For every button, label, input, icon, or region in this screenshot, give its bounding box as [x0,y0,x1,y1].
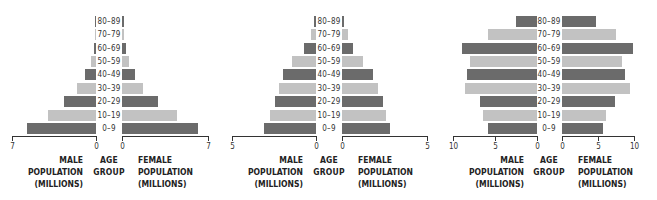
female-axis-tick-label: 0 [560,142,565,151]
age-group-label: 60–69 [529,43,569,54]
male-axis-tick [453,136,454,141]
population-pyramid-3: 0–910–1920–2930–3940–4950–5960–6970–7980… [0,0,657,200]
age-group-label: 70–79 [529,29,569,40]
female-axis-title: FEMALEPOPULATION(MILLIONS) [578,154,657,190]
female-bar [562,43,633,54]
female-axis-tick [634,136,635,141]
male-axis-title: MALEPOPULATION(MILLIONS) [434,154,524,190]
female-bar [562,29,616,40]
male-bar [470,56,537,67]
male-axis-tick-label: 10 [449,142,458,151]
female-bar [562,96,615,107]
male-bar [465,83,537,94]
female-axis-tick-label: 10 [630,142,639,151]
female-bar [562,83,630,94]
male-axis-tick [495,136,496,141]
age-group-label: 80–89 [529,16,569,27]
age-group-label: 40–49 [529,69,569,80]
male-bar [462,43,537,54]
male-axis-tick-label: 0 [535,142,540,151]
age-group-label: 50–59 [529,56,569,67]
female-bar [562,56,622,67]
age-group-axis-title: AGEGROUP [524,154,574,178]
female-axis-tick-label: 5 [596,142,601,151]
age-group-label: 10–19 [529,110,569,121]
female-axis-tick [598,136,599,141]
age-group-label: 30–39 [529,83,569,94]
male-bar [467,69,537,80]
male-axis-tick [537,136,538,141]
age-group-label: 20–29 [529,96,569,107]
female-bar [562,69,625,80]
male-axis-tick-label: 5 [493,142,498,151]
female-axis-tick [562,136,563,141]
age-group-label: 0–9 [529,123,569,134]
